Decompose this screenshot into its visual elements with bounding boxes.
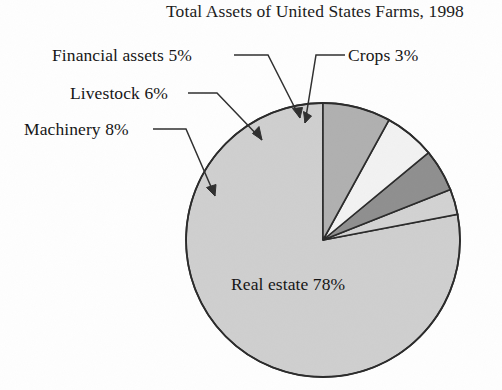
slice-label-financial-assets: Financial assets 5% <box>52 45 192 66</box>
slice-label-livestock: Livestock 6% <box>70 83 168 104</box>
slice-label-real-estate: Real estate 78% <box>231 274 345 295</box>
pie-chart-figure: Total Assets of United States Farms, 199… <box>0 0 502 390</box>
leader-financial-assets <box>234 55 303 118</box>
slice-label-crops: Crops 3% <box>348 45 418 66</box>
slice-label-machinery: Machinery 8% <box>24 119 129 140</box>
